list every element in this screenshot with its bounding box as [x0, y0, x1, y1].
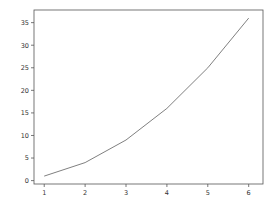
y-tick-label: 20	[21, 87, 29, 95]
plot-area	[34, 10, 263, 184]
x-tick-label: 2	[83, 189, 87, 197]
y-tick-label: 5	[25, 154, 29, 162]
y-tick-label: 30	[21, 42, 29, 50]
y-tick-label: 0	[25, 177, 29, 185]
y-tick-label: 35	[21, 19, 29, 27]
x-tick-label: 5	[206, 189, 210, 197]
x-tick-label: 4	[165, 189, 169, 197]
x-axis: 123456	[42, 184, 251, 197]
y-axis: 05101520253035	[21, 19, 34, 185]
x-tick-label: 3	[124, 189, 128, 197]
line-chart: 123456 05101520253035	[0, 0, 274, 208]
x-tick-label: 6	[247, 189, 251, 197]
y-tick-label: 10	[21, 132, 29, 140]
x-tick-label: 1	[42, 189, 46, 197]
y-tick-label: 25	[21, 64, 29, 72]
y-tick-label: 15	[21, 109, 29, 117]
